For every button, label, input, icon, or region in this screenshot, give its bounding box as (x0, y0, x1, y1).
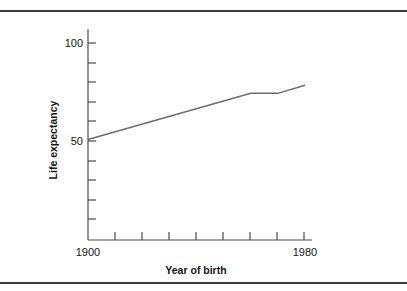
x-tick-label-1980: 1980 (293, 246, 317, 258)
x-axis-ticks (115, 232, 304, 240)
line-chart: 100 50 1900 1980 Life expectancy Year of… (0, 0, 407, 291)
x-axis-title: Year of birth (165, 264, 226, 276)
y-axis-title: Life expectancy (47, 100, 59, 179)
y-tick-label-100: 100 (65, 37, 83, 49)
figure-container: 100 50 1900 1980 Life expectancy Year of… (0, 0, 407, 291)
y-axis-ticks (88, 43, 96, 219)
x-tick-label-1900: 1900 (76, 246, 100, 258)
data-series-life-expectancy (88, 85, 305, 139)
y-tick-label-50: 50 (71, 135, 83, 147)
